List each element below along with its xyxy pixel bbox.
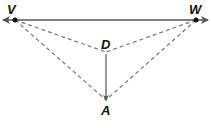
label-v: V [7,2,17,17]
segment-wd [106,20,196,52]
label-a: A [100,103,110,118]
label-d: D [101,37,111,52]
segment-vd [15,20,106,52]
segment-va [15,20,106,100]
segment-wa [106,20,196,100]
geometry-diagram: V W D A [0,0,211,128]
point-v [13,18,18,23]
point-w [194,18,199,23]
label-w: W [189,2,203,17]
